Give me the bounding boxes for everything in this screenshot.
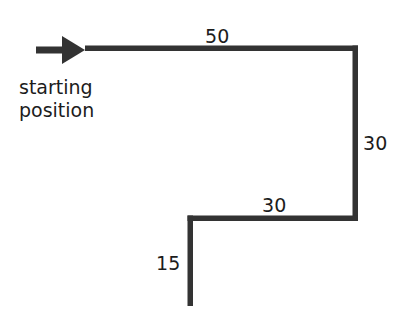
arrow-head-icon bbox=[62, 36, 85, 64]
segment-label-middle: 30 bbox=[262, 196, 287, 215]
segment-right-line bbox=[353, 46, 359, 221]
segment-bottom-line bbox=[188, 216, 194, 307]
segment-label-top: 50 bbox=[205, 27, 230, 46]
starting-position-line-2: position bbox=[19, 99, 94, 122]
starting-position-line-1: starting bbox=[19, 76, 94, 99]
segment-middle-line bbox=[188, 216, 359, 222]
path-drawing bbox=[0, 0, 401, 321]
starting-position-caption: starting position bbox=[19, 76, 94, 122]
segment-label-right: 30 bbox=[363, 134, 388, 153]
diagram-canvas: starting position 50 30 30 15 bbox=[0, 0, 401, 321]
segment-label-bottom: 15 bbox=[156, 254, 181, 273]
